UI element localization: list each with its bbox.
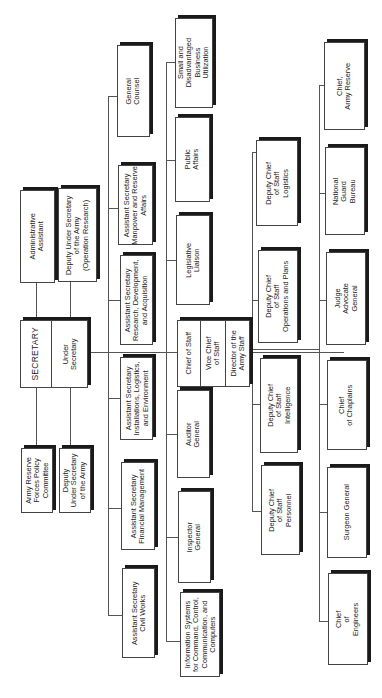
director-army-staff-cell: Director of the Army Staff	[226, 321, 250, 386]
org-box-public-affairs: Public Affairs	[175, 117, 210, 202]
connector	[252, 404, 260, 405]
connector	[108, 96, 117, 97]
org-box-chief-of-engineers: Chief of Engineers	[328, 573, 368, 665]
org-box-legislative-liaison: Legislative Liaison	[176, 215, 210, 305]
connector	[36, 388, 37, 448]
org-box-label: Auditor General	[185, 421, 202, 447]
org-box-deputy-under-secretary-army: Deputy Under Secretary of the Army	[59, 448, 91, 513]
org-box-national-guard-bureau: National Guard Bureau	[325, 147, 365, 235]
org-box-dcs-logistics: Deputy Chief of Staff Logistics	[256, 140, 298, 226]
connector	[108, 398, 120, 399]
connector	[70, 388, 71, 448]
org-box-label: Small and Disadvantaged Business Utiliza…	[177, 38, 210, 87]
org-box-administrative-assistant: Administrative Assistant	[20, 190, 55, 283]
org-box-dcs-operations-plans: Deputy Chief of Staff Operations and Pla…	[258, 250, 298, 343]
chief-of-staff-cell: Chief of Staff	[178, 321, 200, 386]
connector	[108, 615, 122, 616]
director-army-staff-label: Director of the Army Staff	[230, 330, 247, 376]
connector	[166, 62, 175, 63]
org-box-chief-of-staff: Chief of Staff Vice Chief of Staff Direc…	[177, 320, 250, 387]
org-box-chief-army-reserve: Chief, Army Reserve	[324, 42, 365, 130]
org-box-label: Assistant Secretary Financial Management	[130, 469, 147, 544]
org-box-label: National Guard Bureau	[333, 177, 358, 204]
org-box-label: Inspector General	[186, 522, 203, 552]
under-secretary-label: Under Secretary	[62, 338, 79, 370]
connector	[108, 96, 109, 616]
connector	[166, 260, 176, 261]
connector	[166, 62, 167, 642]
connector	[319, 85, 320, 622]
org-box-label: Army Reserve Forces Policy Committee	[25, 457, 50, 504]
org-box-label: Assistant Secretary Civil Works	[130, 581, 147, 645]
connector	[166, 641, 180, 642]
org-box-label: Public Affairs	[184, 149, 201, 170]
org-box-label: Assistant Secretary Manpower and Reserve…	[123, 166, 148, 244]
connector	[70, 282, 71, 320]
connector	[166, 537, 178, 538]
org-box-chief-of-chaplains: Chief of Chaplains	[327, 360, 367, 450]
org-box-label: Legislative Liaison	[185, 243, 202, 278]
org-box-label: Surgeon General	[343, 484, 351, 540]
org-box-dcs-personnel: Deputy Chief of Staff Personnel	[261, 465, 300, 555]
chief-of-staff-label: Chief of Staff	[185, 332, 193, 375]
connector	[250, 349, 320, 350]
org-box-label: Deputy Chief of Staff Operations and Pla…	[266, 261, 291, 332]
connector	[319, 621, 328, 622]
org-box-label: Information Systems for Command, Control…	[183, 597, 216, 672]
org-box-label: Deputy Chief of Staff Intelligence	[267, 384, 292, 427]
connector	[319, 512, 327, 513]
connector	[319, 404, 327, 405]
org-box-label: Chief, Army Reserve	[336, 63, 353, 110]
connector	[319, 300, 326, 301]
connector	[166, 160, 175, 161]
connector	[108, 508, 121, 509]
under-secretary-cell: Under Secretary	[52, 321, 88, 387]
org-box-label: Administrative Assistant	[29, 213, 46, 259]
org-box-as-manpower-reserve: Assistant Secretary Manpower and Reserve…	[118, 165, 153, 245]
secretary-label: SECRETARY	[31, 327, 41, 381]
org-box-label: Deputy Under Secretary of the Army	[63, 454, 88, 508]
connector	[108, 208, 118, 209]
org-box-deputy-under-secretary-operation-research: Deputy Under Secretary of the Army (Oper…	[58, 188, 97, 282]
connector	[166, 434, 177, 435]
org-box-general-counsel: General Counsel	[117, 45, 150, 137]
secretary-cell: SECRETARY	[21, 321, 51, 387]
org-box-as-research-development-acquisition: Assistant Secretary Research, Developmen…	[120, 255, 153, 345]
org-box-dcs-intelligence: Deputy Chief of Staff Intelligence	[260, 358, 298, 453]
org-box-label: Deputy Chief of Staff Logistics	[265, 162, 290, 205]
org-box-as-civil-works: Assistant Secretary Civil Works	[122, 568, 155, 658]
connector	[252, 511, 261, 512]
org-box-label: Deputy Chief of Staff Personnel	[268, 489, 293, 532]
org-box-secretary: SECRETARY Under Secretary	[20, 320, 88, 388]
org-box-label: Deputy Under Secretary of the Army (Oper…	[65, 195, 90, 274]
org-box-label: General Counsel	[125, 77, 142, 104]
org-box-information-systems: Information Systems for Command, Control…	[180, 592, 220, 677]
org-box-label: Assistant Secretary Research, Developmen…	[124, 259, 149, 340]
org-box-army-reserve-forces-policy-committee: Army Reserve Forces Policy Committee	[21, 448, 53, 513]
org-box-label: Judge Advocate General	[334, 283, 359, 314]
vice-chief-of-staff-label: Vice Chief of Staff	[205, 337, 222, 371]
org-box-judge-advocate-general: Judge Advocate General	[326, 252, 366, 345]
org-box-label: Chief of Engineers	[336, 602, 361, 635]
org-box-label: Chief of Chaplains	[339, 384, 356, 425]
org-box-auditor-general: Auditor General	[177, 390, 210, 478]
vice-chief-of-staff-cell: Vice Chief of Staff	[201, 321, 225, 386]
connector	[36, 283, 37, 320]
org-box-surgeon-general: Surgeon General	[327, 467, 367, 558]
org-box-inspector-general: Inspector General	[178, 491, 211, 583]
connector	[252, 152, 253, 512]
org-box-small-disadvantaged-business: Small and Disadvantaged Business Utiliza…	[175, 18, 213, 108]
org-box-label: Assistant Secretary Installations, Logis…	[124, 362, 149, 436]
org-box-as-installations-logistics-environment: Assistant Secretary Installations, Logis…	[120, 357, 153, 440]
org-box-as-financial-management: Assistant Secretary Financial Management	[121, 462, 155, 550]
connector	[108, 300, 120, 301]
